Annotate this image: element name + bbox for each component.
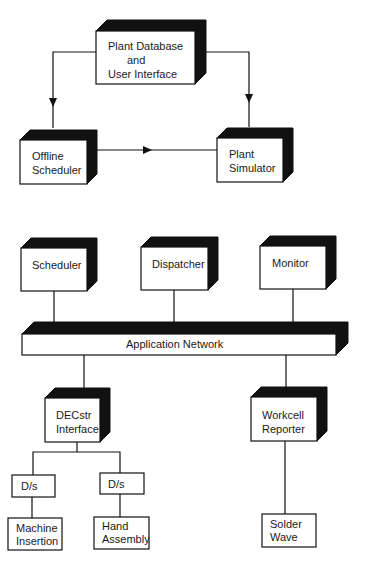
dispatcher-side-face <box>208 237 218 290</box>
solder-wave-label-line-1: Solder <box>270 518 302 530</box>
workcell-reporter-node: WorkcellReporter <box>251 387 327 441</box>
plant-database-side-face <box>195 20 206 84</box>
dispatcher-label-line-1: Dispatcher <box>152 258 205 270</box>
plant-database-label-line-1: Plant Database <box>108 40 183 52</box>
decstr-interface-top-face <box>45 388 110 398</box>
monitor-node: Monitor <box>260 236 336 289</box>
architecture-diagram: Plant DatabaseandUser InterfaceOfflineSc… <box>0 0 367 564</box>
network-node: Application Network <box>22 322 348 355</box>
workcell-reporter-label-line-2: Reporter <box>262 423 305 435</box>
decstr-interface-side-face <box>100 388 110 442</box>
decstr-interface-label-line-2: Interface <box>56 423 99 435</box>
hand-assembly-node: HandAssembly <box>94 517 150 549</box>
monitor-label-line-1: Monitor <box>272 257 309 269</box>
offline-scheduler-top-face <box>20 130 97 140</box>
plant-simulator-label-line-1: Plant <box>229 148 254 160</box>
dispatcher-top-face <box>141 237 218 247</box>
arrow-head-down-icon <box>245 94 253 103</box>
hand-assembly-label-line-2: Assembly <box>102 533 150 545</box>
solder-wave-label-line-2: Wave <box>270 531 298 543</box>
monitor-side-face <box>326 236 336 289</box>
scheduler-side-face <box>87 238 97 291</box>
ds-left-node: D/s <box>12 475 55 497</box>
plant-simulator-label-line-2: Simulator <box>229 162 276 174</box>
ds-left-label-line-1: D/s <box>21 480 38 492</box>
dispatcher-node: Dispatcher <box>141 237 218 290</box>
plant-database-label-line-2: and <box>127 54 145 66</box>
decstr-interface-label-line-1: DECstr <box>56 409 92 421</box>
workcell-reporter-side-face <box>317 387 327 441</box>
plant-database-top-face <box>96 20 206 31</box>
network-label-line-1: Application Network <box>126 338 224 350</box>
scheduler-top-face <box>21 238 97 248</box>
scheduler-label-line-1: Scheduler <box>32 259 82 271</box>
machine-insertion-node: MachineInsertion <box>8 518 62 550</box>
workcell-reporter-label-line-1: Workcell <box>262 409 304 421</box>
plant-simulator-top-face <box>217 128 293 138</box>
scheduler-node: Scheduler <box>21 238 97 291</box>
offline-scheduler-side-face <box>87 130 97 184</box>
machine-insertion-label-line-1: Machine <box>16 522 58 534</box>
edge-decstr-interface-to-ds <box>33 452 120 475</box>
network-top-face <box>22 322 348 334</box>
plant-database-label-line-3: User Interface <box>108 68 177 80</box>
solder-wave-node: SolderWave <box>262 514 316 547</box>
ds-right-node: D/s <box>100 473 144 494</box>
hand-assembly-label-line-1: Hand <box>102 520 128 532</box>
arrow-head-down-icon <box>49 98 57 107</box>
offline-scheduler-label-line-2: Scheduler <box>32 164 82 176</box>
offline-scheduler-label-line-1: Offline <box>32 150 64 162</box>
nodes-layer: Plant DatabaseandUser InterfaceOfflineSc… <box>8 20 348 550</box>
workcell-reporter-top-face <box>251 387 327 397</box>
plant-simulator-node: PlantSimulator <box>217 128 293 182</box>
ds-right-label-line-1: D/s <box>108 478 125 490</box>
plant-simulator-box <box>217 138 283 182</box>
machine-insertion-label-line-2: Insertion <box>16 535 58 547</box>
offline-scheduler-node: OfflineScheduler <box>20 130 97 184</box>
offline-scheduler-box <box>20 140 87 184</box>
edge-plant-database-to-offline-scheduler <box>53 52 96 128</box>
plant-simulator-side-face <box>283 128 293 182</box>
arrow-head-right-icon <box>143 146 152 154</box>
edge-plant-database-to-plant-simulator <box>205 52 249 127</box>
plant-database-node: Plant DatabaseandUser Interface <box>96 20 206 84</box>
monitor-top-face <box>260 236 336 246</box>
decstr-interface-node: DECstrInterface <box>45 388 110 442</box>
